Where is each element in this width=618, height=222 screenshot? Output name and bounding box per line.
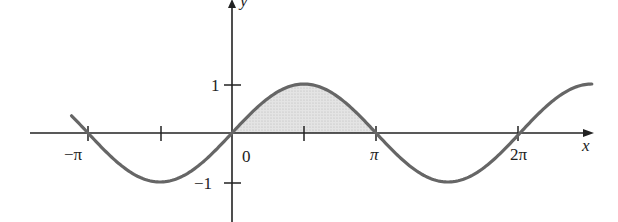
label-two-pi: 2π — [510, 145, 528, 164]
label-neg-pi: −π — [64, 145, 83, 164]
y-axis-arrow-icon — [228, 0, 236, 8]
label-origin: 0 — [242, 147, 251, 166]
label-pi: π — [370, 145, 379, 164]
label-y-axis: y — [238, 0, 248, 10]
sine-graph: −π 0 π 2π x y 1 −1 — [0, 0, 618, 222]
label-neg-one: −1 — [194, 174, 212, 193]
shaded-region — [232, 84, 376, 133]
label-one: 1 — [211, 76, 220, 95]
label-x-axis: x — [581, 136, 590, 155]
